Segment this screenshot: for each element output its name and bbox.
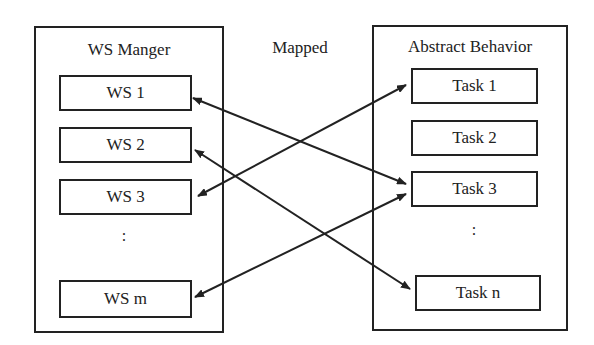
arrow-ws2-taskn: [195, 150, 410, 289]
mapping-arrows: [0, 0, 594, 345]
diagram-canvas: WS Manger WS 1 WS 2 WS 3 : WS m Mapped A…: [0, 0, 594, 345]
arrow-ws3-task1: [198, 85, 406, 196]
arrow-wsm-task3: [195, 194, 406, 297]
